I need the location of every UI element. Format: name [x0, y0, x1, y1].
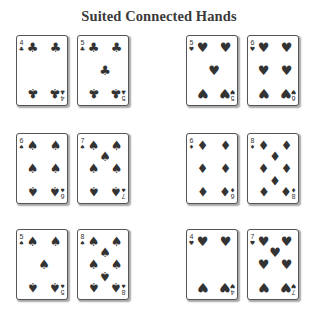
club-pip-icon: ♣ [109, 86, 123, 100]
diamond-pip-icon: ♦ [196, 162, 210, 176]
spade-pip-icon: ♠ [26, 235, 40, 249]
card-index-top: 7♥ [249, 233, 256, 246]
card-index-top: 6♠ [18, 137, 25, 150]
spade-pip-icon: ♠ [48, 184, 62, 198]
card-index-top: 6♥ [249, 39, 256, 52]
heart-pip-icon: ♥ [257, 258, 271, 272]
club-pip-icon: ♣ [48, 86, 62, 100]
spade-pip-icon: ♠ [87, 184, 101, 198]
clubs-icon: ♣ [79, 46, 86, 52]
club-pip-icon: ♣ [87, 86, 101, 100]
diamond-pip-icon: ♦ [279, 184, 293, 198]
card-index-top: 8♠ [79, 233, 86, 246]
hearts-icon: ♥ [188, 240, 195, 246]
clubs-icon: ♣ [18, 46, 25, 52]
diamond-pip-icon: ♦ [218, 139, 232, 153]
diamond-pip-icon: ♦ [196, 139, 210, 153]
card-6-of-spades: 6♠6♠♠♠♠♠♠♠ [16, 133, 68, 204]
heart-pip-icon: ♥ [196, 280, 210, 294]
spades-icon: ♠ [79, 144, 86, 150]
heart-pip-icon: ♥ [218, 41, 232, 55]
card-5-of-spades: 5♠5♠♠♠♠♠♠ [16, 229, 68, 300]
card-index-top: 5♣ [79, 39, 86, 52]
club-pip-icon: ♣ [26, 86, 40, 100]
card-6-of-hearts: 6♥6♥♥♥♥♥♥♥ [247, 35, 299, 106]
card-index-top: 5♥ [188, 39, 195, 52]
card-5-of-clubs: 5♣5♣♣♣♣♣♣ [77, 35, 129, 106]
card-index-top: 8♦ [249, 137, 256, 150]
spade-pip-icon: ♠ [87, 280, 101, 294]
spade-pip-icon: ♠ [37, 258, 51, 272]
heart-pip-icon: ♥ [257, 280, 271, 294]
card-6-of-diamonds: 6♦6♦♦♦♦♦♦♦ [186, 133, 238, 204]
card-index-top: 4♣ [18, 39, 25, 52]
heart-pip-icon: ♥ [279, 86, 293, 100]
hearts-icon: ♥ [249, 240, 256, 246]
spades-icon: ♠ [79, 240, 86, 246]
spades-icon: ♠ [18, 144, 25, 150]
spades-icon: ♠ [18, 240, 25, 246]
heart-pip-icon: ♥ [196, 86, 210, 100]
spade-pip-icon: ♠ [26, 139, 40, 153]
spade-pip-icon: ♠ [48, 139, 62, 153]
club-pip-icon: ♣ [48, 41, 62, 55]
diamond-pip-icon: ♦ [257, 184, 271, 198]
card-8-of-diamonds: 8♦8♦♦♦♦♦♦♦♦♦ [247, 133, 299, 204]
hearts-icon: ♥ [188, 46, 195, 52]
club-pip-icon: ♣ [98, 64, 112, 78]
spade-pip-icon: ♠ [48, 162, 62, 176]
heart-pip-icon: ♥ [196, 41, 210, 55]
card-index-top: 6♦ [188, 137, 195, 150]
heart-pip-icon: ♥ [257, 41, 271, 55]
spade-pip-icon: ♠ [87, 162, 101, 176]
spade-pip-icon: ♠ [48, 280, 62, 294]
diamond-pip-icon: ♦ [196, 184, 210, 198]
heart-pip-icon: ♥ [218, 235, 232, 249]
card-8-of-spades: 8♠8♠♠♠♠♠♠♠♠♠ [77, 229, 129, 300]
club-pip-icon: ♣ [87, 41, 101, 55]
heart-pip-icon: ♥ [279, 258, 293, 272]
card-7-of-spades: 7♠7♠♠♠♠♠♠♠♠ [77, 133, 129, 204]
spade-pip-icon: ♠ [26, 184, 40, 198]
spade-pip-icon: ♠ [109, 162, 123, 176]
heart-pip-icon: ♥ [196, 235, 210, 249]
spade-pip-icon: ♠ [109, 280, 123, 294]
diamond-pip-icon: ♦ [218, 162, 232, 176]
heart-pip-icon: ♥ [218, 86, 232, 100]
diamond-pip-icon: ♦ [218, 184, 232, 198]
heart-pip-icon: ♥ [218, 280, 232, 294]
spade-pip-icon: ♠ [48, 235, 62, 249]
heart-pip-icon: ♥ [207, 64, 221, 78]
diamonds-icon: ♦ [188, 144, 195, 150]
spade-pip-icon: ♠ [26, 280, 40, 294]
page-title: Suited Connected Hands [0, 8, 318, 25]
card-4-of-clubs: 4♣4♣♣♣♣♣ [16, 35, 68, 106]
card-7-of-hearts: 7♥7♥♥♥♥♥♥♥♥ [247, 229, 299, 300]
card-index-top: 4♥ [188, 233, 195, 246]
spade-pip-icon: ♠ [26, 162, 40, 176]
spade-pip-icon: ♠ [109, 184, 123, 198]
heart-pip-icon: ♥ [257, 64, 271, 78]
card-index-top: 7♠ [79, 137, 86, 150]
card-5-of-hearts: 5♥5♥♥♥♥♥♥ [186, 35, 238, 106]
heart-pip-icon: ♥ [279, 64, 293, 78]
heart-pip-icon: ♥ [279, 280, 293, 294]
club-pip-icon: ♣ [109, 41, 123, 55]
heart-pip-icon: ♥ [279, 41, 293, 55]
card-4-of-hearts: 4♥4♥♥♥♥♥ [186, 229, 238, 300]
hearts-icon: ♥ [249, 46, 256, 52]
heart-pip-icon: ♥ [257, 86, 271, 100]
card-index-top: 5♠ [18, 233, 25, 246]
club-pip-icon: ♣ [26, 41, 40, 55]
diamonds-icon: ♦ [249, 144, 256, 150]
